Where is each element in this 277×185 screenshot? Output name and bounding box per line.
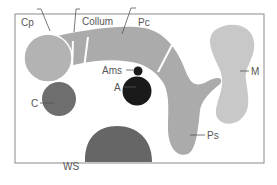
label-a: A — [114, 82, 121, 93]
label-pc: Pc — [138, 17, 150, 28]
region-c — [42, 82, 76, 116]
label-collum: Collum — [82, 16, 113, 27]
region-a — [123, 77, 152, 106]
label-m: M — [251, 66, 259, 77]
region-ams — [134, 67, 143, 76]
diagram-canvas: Cp Collum Pc Ams A C M Ps WS — [0, 0, 277, 185]
label-ps: Ps — [207, 130, 219, 141]
label-c: C — [31, 98, 38, 109]
label-ams: Ams — [102, 65, 122, 76]
region-cp — [24, 34, 72, 82]
label-cp: Cp — [21, 17, 34, 28]
label-ws: WS — [63, 161, 79, 172]
